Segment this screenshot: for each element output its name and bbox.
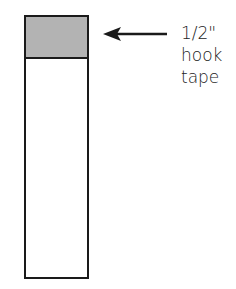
label-line-size: 1/2": [181, 22, 222, 44]
arrow-left-icon: [103, 26, 169, 42]
label-line-tape: tape: [181, 66, 222, 88]
hook-tape-label: 1/2" hook tape: [181, 22, 222, 88]
fabric-strip: [24, 15, 89, 279]
label-line-hook: hook: [181, 44, 222, 66]
hook-tape-region: [26, 17, 87, 59]
